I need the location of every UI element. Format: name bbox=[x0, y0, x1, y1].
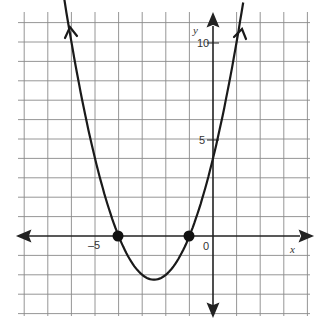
y-axis-label: y bbox=[192, 24, 198, 36]
root-point-neg1 bbox=[184, 231, 195, 242]
x-axis-right-arrow-icon bbox=[300, 231, 312, 241]
y-tick-label-5: 5 bbox=[199, 134, 205, 146]
axes bbox=[18, 14, 312, 316]
origin-label: 0 bbox=[203, 240, 209, 252]
x-tick-label-neg5: –5 bbox=[88, 239, 100, 251]
y-axis-up-arrow-icon bbox=[208, 14, 218, 26]
arrowheads bbox=[65, 27, 246, 39]
root-point-neg4 bbox=[113, 231, 124, 242]
y-tick-label-10: 10 bbox=[197, 37, 209, 49]
parabola-graph: –5 0 5 10 x y bbox=[0, 0, 326, 329]
x-axis-label: x bbox=[289, 243, 295, 255]
y-axis-down-arrow-icon bbox=[208, 304, 218, 316]
grid bbox=[18, 12, 310, 316]
curve-right-arrow-icon bbox=[234, 29, 246, 39]
